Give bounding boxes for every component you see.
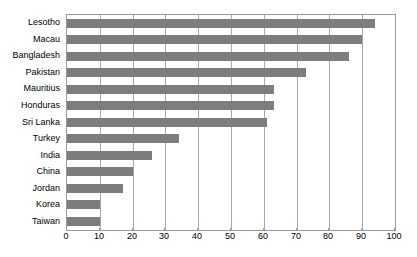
bar-series [67,15,395,230]
category-axis: LesothoMacauBangladeshPakistanMauritiusH… [0,14,63,229]
tick-label-60: 60 [258,231,268,242]
tick-label-90: 90 [356,231,366,242]
category-label-korea: Korea [0,199,60,209]
category-label-macau: Macau [0,34,60,44]
plot-area [66,14,396,231]
bar-taiwan [67,217,100,226]
tick-label-40: 40 [192,231,202,242]
bar-jordan [67,184,123,193]
bar-row [67,197,395,214]
tick-label-20: 20 [127,231,137,242]
bar-chart: LesothoMacauBangladeshPakistanMauritiusH… [0,0,417,257]
category-label-honduras: Honduras [0,100,60,110]
bar-sri-lanka [67,118,267,127]
category-label-india: India [0,150,60,160]
bar-row [67,65,395,82]
bar-row [67,114,395,131]
category-label-china: China [0,166,60,176]
category-label-sri-lanka: Sri Lanka [0,117,60,127]
bar-macau [67,35,362,44]
category-label-turkey: Turkey [0,133,60,143]
tick-label-100: 100 [386,231,401,242]
category-label-taiwan: Taiwan [0,216,60,226]
bar-row [67,164,395,181]
bar-row [67,32,395,49]
gridline-100 [395,15,396,230]
bar-korea [67,200,100,209]
bar-row [67,15,395,32]
bar-pakistan [67,68,306,77]
tick-label-30: 30 [159,231,169,242]
category-label-lesotho: Lesotho [0,17,60,27]
value-axis: 0102030405060708090100 [66,231,394,251]
tick-label-70: 70 [291,231,301,242]
category-label-bangladesh: Bangladesh [0,50,60,60]
bar-row [67,180,395,197]
tick-label-0: 0 [63,231,68,242]
bar-india [67,151,152,160]
bar-row [67,147,395,164]
bar-row [67,213,395,230]
tick-label-50: 50 [225,231,235,242]
bar-turkey [67,134,179,143]
bar-row [67,48,395,65]
bar-row [67,81,395,98]
category-label-pakistan: Pakistan [0,67,60,77]
bar-row [67,98,395,115]
tick-label-10: 10 [94,231,104,242]
tick-label-80: 80 [323,231,333,242]
bar-bangladesh [67,52,349,61]
bar-lesotho [67,19,375,28]
bar-china [67,167,133,176]
bar-mauritius [67,85,274,94]
bar-row [67,131,395,148]
category-label-mauritius: Mauritius [0,83,60,93]
category-label-jordan: Jordan [0,183,60,193]
bar-honduras [67,101,274,110]
